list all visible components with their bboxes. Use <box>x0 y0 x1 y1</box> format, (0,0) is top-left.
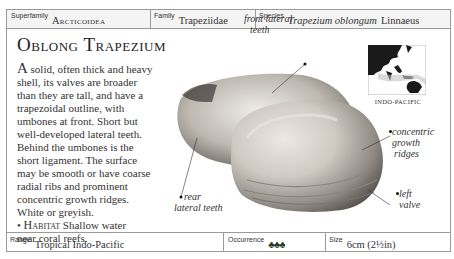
species-name: Trapezium oblongum <box>288 15 377 26</box>
description: A solid, often thick and heavyshell, its… <box>17 62 187 245</box>
size-value: 6cm (2½in) <box>347 239 396 250</box>
label-left-valve: left valve <box>399 188 420 210</box>
bullet-icon: • <box>17 219 21 231</box>
occurrence-cell: Occurrence ♣♣♣ <box>228 233 285 252</box>
pointer-dot-icon <box>389 130 392 133</box>
range-map <box>368 45 426 95</box>
annotation-text: concentric <box>392 126 434 137</box>
size-cell: Size 6cm (2½in) <box>329 233 396 252</box>
divider <box>150 10 151 28</box>
left-valve <box>231 100 383 212</box>
description-line: Behind the umbones is the <box>17 141 187 154</box>
description-line: trapezoidal outline, with <box>17 102 187 115</box>
label-concentric-growth-ridges: concentric growth ridges <box>392 126 434 159</box>
annotation-text: ridges <box>392 148 434 159</box>
classification-bar: Superfamily Arcticoidea Family Trapeziid… <box>7 10 450 29</box>
page-title: Oblong Trapezium <box>17 34 166 56</box>
annotation-text: teeth <box>244 24 292 35</box>
size-label: Size <box>329 236 343 243</box>
species-author: Linnaeus <box>381 15 420 26</box>
superfamily-label: Superfamily <box>11 12 48 19</box>
description-line: A solid, often thick and heavy <box>17 62 187 76</box>
divider <box>223 233 224 252</box>
label-front-lateral-teeth: front lateral teeth <box>244 13 292 35</box>
occurrence-rating-icon: ♣♣♣ <box>268 239 285 250</box>
description-line: radial ribs and prominent <box>17 180 187 193</box>
occurrence-label: Occurrence <box>228 236 264 243</box>
pointer-dot-icon <box>396 192 399 195</box>
annotation-text: growth <box>392 137 434 148</box>
description-line: concentric growth ridges. <box>17 193 187 206</box>
habitat-text: Shallow water <box>63 219 126 231</box>
family-label: Family <box>154 12 175 19</box>
family-value: Trapeziidae <box>179 15 228 26</box>
description-line: shell, its valves are broader <box>17 76 187 89</box>
annotation-text: front lateral <box>244 13 292 24</box>
description-line: short ligament. The surface <box>17 154 187 167</box>
superfamily-value: Arcticoidea <box>52 15 105 26</box>
annotation-text: lateral teeth <box>174 202 223 213</box>
label-rear-lateral-teeth: rear lateral teeth <box>184 191 223 213</box>
description-line: may be smooth or have coarse <box>17 167 187 180</box>
habitat-label: Habitat <box>24 218 60 232</box>
family-cell: Family Trapeziidae <box>154 10 228 28</box>
habitat-line: • Habitat Shallow water <box>17 219 187 232</box>
species-card: Superfamily Arcticoidea Family Trapeziid… <box>6 9 451 252</box>
superfamily-cell: Superfamily Arcticoidea <box>11 10 105 28</box>
annotation-text: rear <box>184 191 223 202</box>
range-cell: Range Tropical Indo-Pacific <box>10 233 124 252</box>
range-value: Tropical Indo-Pacific <box>35 239 125 250</box>
description-line: umbones at front. Short but <box>17 115 187 128</box>
footer-bar: Range Tropical Indo-Pacific Occurrence ♣… <box>7 232 450 252</box>
drop-cap: A <box>17 60 28 76</box>
divider <box>325 233 326 252</box>
description-line: well-developed lateral teeth. <box>17 128 187 141</box>
annotation-text: valve <box>399 199 420 210</box>
range-label: Range <box>10 236 31 243</box>
description-line: than they are tall, and have a <box>17 89 187 102</box>
map-region-label: INDO-PACIFIC <box>363 98 433 105</box>
annotation-text: left <box>399 188 420 199</box>
